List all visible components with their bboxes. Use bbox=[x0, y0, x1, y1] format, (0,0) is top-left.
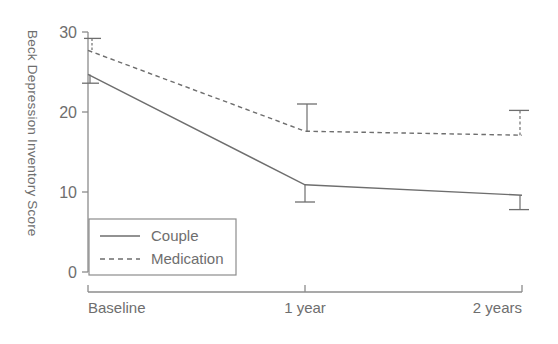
medication-errorbar-2-years bbox=[509, 110, 529, 135]
x-axis bbox=[88, 285, 522, 292]
couple-line bbox=[88, 74, 522, 195]
medication-errorbar-baseline bbox=[84, 38, 101, 50]
medication-line bbox=[88, 50, 522, 135]
medication-errorbar-1-year bbox=[297, 104, 317, 131]
y-tick-label-10: 10 bbox=[59, 184, 77, 201]
chart-figure: 30 20 10 0 Beck Depression Inventory Sco… bbox=[0, 0, 558, 344]
legend-label-couple: Couple bbox=[151, 227, 199, 244]
couple-errorbar-2-years bbox=[509, 195, 529, 209]
chart-legend: Couple Medication bbox=[89, 219, 236, 275]
series-couple bbox=[82, 74, 529, 209]
x-category-label-1-year: 1 year bbox=[284, 299, 326, 316]
x-category-label-baseline: Baseline bbox=[88, 299, 146, 316]
y-tick-label-0: 0 bbox=[68, 264, 77, 281]
y-tick-label-30: 30 bbox=[59, 24, 77, 41]
couple-errorbar-1-year bbox=[295, 185, 315, 202]
y-axis-title: Beck Depression Inventory Score bbox=[25, 30, 40, 237]
y-tick-label-20: 20 bbox=[59, 104, 77, 121]
series-medication bbox=[84, 38, 529, 135]
y-axis bbox=[82, 32, 88, 272]
legend-label-medication: Medication bbox=[151, 250, 224, 267]
x-category-label-2-years: 2 years bbox=[473, 299, 522, 316]
line-chart-canvas: 30 20 10 0 Beck Depression Inventory Sco… bbox=[0, 0, 558, 344]
